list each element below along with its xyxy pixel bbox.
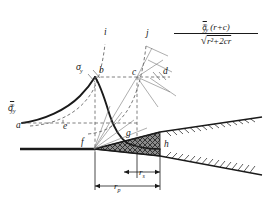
point-label-h: h (164, 140, 169, 150)
rp-subscript: p (118, 187, 121, 193)
point-label-c: c (132, 68, 136, 78)
formula-denominator: √r²+2cr (174, 34, 258, 47)
rp-symbol: r (114, 181, 118, 191)
formula-numerator: σ∞yy(r+c) (174, 23, 258, 34)
dashed-curve-i (30, 44, 105, 126)
sigma-y-label: σy (76, 57, 84, 73)
dimension-label-rp: rp (114, 176, 121, 192)
point-label-f: f (81, 138, 84, 148)
upper-boundary-hatching (166, 119, 255, 137)
rs-symbol: r (139, 167, 143, 177)
rs-subscript: s (143, 173, 145, 179)
curve-label-i: i (104, 28, 107, 38)
stress-formula: σ∞yy(r+c) √r²+2cr (174, 23, 258, 47)
formula-denominator-body: r²+2cr (207, 36, 231, 46)
sigma-subscript-yy: yy (10, 108, 15, 114)
point-label-b: b (99, 66, 104, 76)
figure-canvas: σ∞yy(r+c) √r²+2cr σ∞yy σy i j a b c d e … (0, 0, 268, 201)
sigma-infinity-yy-label: σ∞yy (8, 98, 23, 114)
point-label-e: e (63, 122, 67, 132)
point-label-d: d (163, 67, 168, 77)
lower-boundary-line (94, 149, 262, 175)
point-label-g: g (126, 129, 131, 139)
upper-right-rays (137, 46, 176, 107)
formula-sigma-subscript: yy (203, 27, 208, 33)
curve-label-j: j (146, 29, 149, 39)
dimension-label-rs: rs (139, 162, 145, 178)
lower-boundary-hatching (166, 152, 255, 173)
sigma-y-subscript: y (80, 68, 83, 74)
point-label-a: a (16, 121, 21, 131)
formula-numerator-rest: (r+c) (210, 22, 230, 32)
